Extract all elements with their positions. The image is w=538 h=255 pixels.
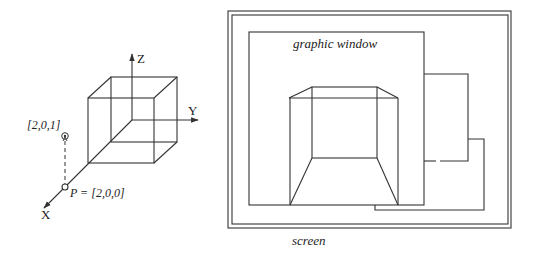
point-annotations: [2,0,1] P = [2,0,0] [27, 118, 125, 200]
screen-label: screen [292, 233, 325, 248]
x-axis-label: X [41, 207, 51, 222]
z-axis-label: Z [137, 51, 145, 66]
elevated-point-label: [2,0,1] [27, 118, 61, 132]
point-p-label: P = [2,0,0] [69, 186, 125, 200]
elevated-point-marker [62, 133, 69, 141]
perspective-cube [289, 87, 398, 205]
left-3d-figure: Z Y X [2,0,1] P = [2,0,0] [27, 51, 198, 222]
graphic-window-label: graphic window [293, 36, 377, 51]
y-axis-label: Y [188, 103, 198, 118]
right-screen-figure: graphic window screen [228, 11, 511, 248]
diagram-canvas: Z Y X [2,0,1] P = [2,0,0] [0, 0, 538, 255]
background-window-1 [424, 74, 468, 161]
point-p-marker [62, 184, 68, 190]
